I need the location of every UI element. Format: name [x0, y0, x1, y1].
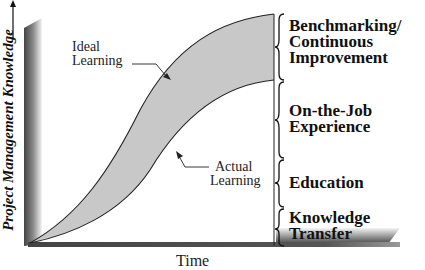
- ideal-learning-label: Ideal Learning: [72, 40, 123, 68]
- stage-knowledge-transfer: Knowledge Transfer: [289, 210, 370, 242]
- stage-education-line1: Education: [289, 175, 364, 191]
- brace-benchmarking: [275, 14, 284, 80]
- actual-learning-label: Actual Learning: [210, 160, 261, 188]
- ideal-label-line1: Ideal: [72, 40, 123, 54]
- actual-leader-arrowhead: [176, 151, 183, 159]
- actual-leader-line: [180, 158, 209, 167]
- y-axis-bar: [24, 18, 42, 246]
- stage-on-the-job-line2: Experience: [289, 119, 372, 135]
- x-axis-label: Time: [176, 252, 209, 270]
- ideal-label-line2: Learning: [72, 54, 123, 68]
- actual-label-line1: Actual: [210, 160, 261, 174]
- stage-benchmarking-line3: Improvement: [289, 50, 401, 66]
- stage-on-the-job: On-the-Job Experience: [289, 103, 372, 135]
- actual-label-line2: Learning: [210, 174, 261, 188]
- brace-on-the-job: [275, 82, 284, 158]
- y-axis-label: Project Management Knowledge: [0, 10, 20, 250]
- stage-benchmarking: Benchmarking/ Continuous Improvement: [289, 18, 401, 66]
- learning-gap-area: [30, 14, 274, 243]
- stage-knowledge-transfer-line2: Transfer: [289, 226, 370, 242]
- ideal-leader-line: [132, 64, 166, 76]
- stage-education: Education: [289, 175, 364, 191]
- brace-education: [275, 160, 284, 207]
- y-axis-arrowhead: [10, 0, 16, 7]
